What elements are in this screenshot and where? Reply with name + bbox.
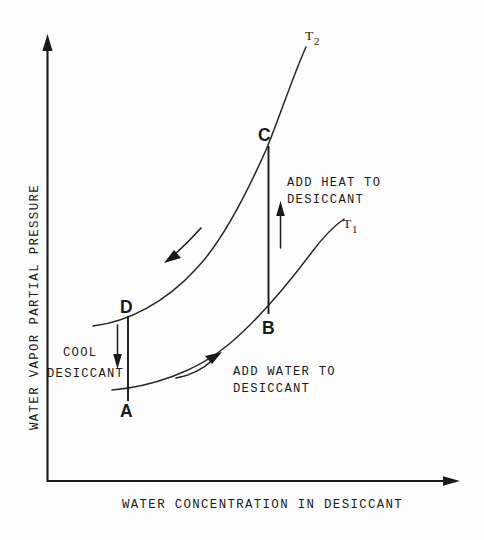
isotherm-curves xyxy=(93,47,344,390)
isotherm-label-T2: T 2 xyxy=(305,28,320,47)
arrow-right-icon xyxy=(443,476,460,486)
annotation-add-heat-line2: DESICCANT xyxy=(287,193,364,207)
isotherm-label-T1-base: T xyxy=(343,216,352,231)
isotherm-label-T2-sub: 2 xyxy=(314,35,320,47)
arrow-up-right-icon xyxy=(205,352,222,364)
x-axis-label: WATER CONCENTRATION IN DESICCANT xyxy=(122,498,403,512)
point-label-C: C xyxy=(258,125,271,145)
figure-root: A B C D T 2 T 1 ADD HEAT TO DESICCANT AD… xyxy=(0,0,484,540)
flow-arrows xyxy=(113,201,285,378)
isotherm-label-T1: T 1 xyxy=(343,216,358,235)
annotation-add-heat-line1: ADD HEAT TO xyxy=(287,176,381,190)
point-label-B: B xyxy=(262,318,275,338)
point-label-D: D xyxy=(120,297,133,317)
desiccant-cycle-diagram: A B C D T 2 T 1 ADD HEAT TO DESICCANT AD… xyxy=(0,0,484,540)
process-annotation-text: ADD HEAT TO DESICCANT ADD WATER TO DESIC… xyxy=(47,176,381,396)
flow-arrow-add-heat xyxy=(276,201,285,248)
flow-arrow-cool xyxy=(113,325,122,369)
isotherm-label-T1-sub: 1 xyxy=(352,223,358,235)
arrow-up-icon xyxy=(42,34,52,51)
point-label-A: A xyxy=(120,401,133,421)
arrow-up-icon xyxy=(276,201,285,216)
flow-arrow-regeneration xyxy=(164,228,201,263)
process-lines xyxy=(128,146,269,401)
annotation-add-water-line2: DESICCANT xyxy=(233,382,310,396)
isotherm-label-T2-base: T xyxy=(305,28,314,43)
isotherm-curve-T2 xyxy=(93,47,306,326)
annotation-cool-line2: DESICCANT xyxy=(47,367,124,381)
axis-group xyxy=(42,34,460,486)
annotation-cool-line1: COOL xyxy=(63,346,97,360)
annotation-add-water-line1: ADD WATER TO xyxy=(233,365,336,379)
y-axis-label: WATER VAPOR PARTIAL PRESSURE xyxy=(28,184,42,430)
